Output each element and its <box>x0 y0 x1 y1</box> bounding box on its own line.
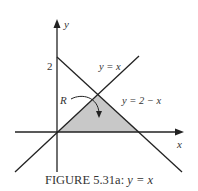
caption-math: y = x <box>127 173 153 187</box>
line-label-y-equals-x: y = x <box>98 61 121 72</box>
figure-caption: FIGURE 5.31a: y = x <box>0 173 198 188</box>
y-tick-label: 2 <box>47 60 53 72</box>
line-y-equals-x <box>15 56 139 172</box>
figure-diagram: y x 2 y = x y = 2 − x R <box>0 0 198 191</box>
x-axis-arrow-icon <box>175 129 184 136</box>
region-label: R <box>59 94 67 106</box>
y-axis-label: y <box>63 18 69 30</box>
line-label-y-equals-2-minus-x: y = 2 − x <box>121 95 162 106</box>
caption-prefix: FIGURE 5.31a: <box>45 173 127 187</box>
x-axis-label: x <box>176 138 182 150</box>
y-axis-arrow-icon <box>54 19 61 28</box>
